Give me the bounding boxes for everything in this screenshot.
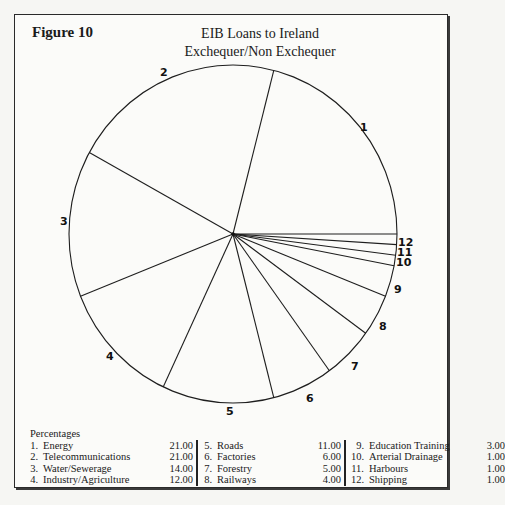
legend-item: 5.Roads11.00 [204,440,346,452]
slice-label-7: 7 [351,360,359,373]
legend-item: 8.Railways4.00 [204,474,346,486]
legend-name: Roads [217,440,309,452]
legend-value: 3.00 [479,440,505,452]
legend-item: 7.Forestry5.00 [204,463,346,475]
legend-number: 2. [30,451,43,463]
legend-value: 11.00 [309,440,346,452]
legend-column-3: 9.Education Training3.00 10.Arterial Dra… [346,440,505,486]
legend-value: 12.00 [161,474,198,486]
legend-number: 4. [30,474,43,486]
legend-value: 4.00 [309,474,346,486]
slice-boundary [233,234,274,398]
legend-name: Factories [217,451,309,463]
legend-item: 9.Education Training3.00 [350,440,505,452]
legend-number: 5. [204,440,217,452]
slice-boundary [81,234,234,296]
slice-label-5: 5 [226,405,234,418]
legend-item: 3.Water/Sewerage14.00 [30,463,198,475]
slice-label-8: 8 [379,320,387,333]
slice-label-6: 6 [306,392,314,405]
legend-number: 6. [204,451,217,463]
legend-number: 8. [204,474,217,486]
legend-item: 10.Arterial Drainage1.00 [350,451,505,463]
legend: Percentages 1.Energy21.00 2.Telecommunic… [30,428,505,486]
slice-boundary [233,70,274,234]
legend-name: Arterial Drainage [369,451,479,463]
legend-item: 1.Energy21.00 [30,440,198,452]
legend-value: 1.00 [479,451,505,463]
legend-number: 9. [350,440,369,452]
legend-item: 4.Industry/Agriculture12.00 [30,474,198,486]
slice-label-2: 2 [160,66,168,79]
legend-number: 12. [350,474,369,486]
slice-label-12: 12 [398,236,413,249]
slice-label-4: 4 [106,350,114,363]
legend-number: 1. [30,440,43,452]
legend-name: Harbours [369,463,479,475]
slice-boundary [89,153,233,234]
legend-value: 1.00 [479,474,505,486]
legend-title: Percentages [30,428,505,440]
legend-value: 6.00 [309,451,346,463]
slice-boundary [163,234,233,387]
legend-item: 12.Shipping1.00 [350,474,505,486]
legend-name: Railways [217,474,309,486]
legend-name: Industry/Agriculture [43,474,161,486]
legend-item: 2.Telecommunications21.00 [30,451,198,463]
legend-value: 1.00 [479,463,505,475]
legend-value: 5.00 [309,463,346,475]
legend-column-1: 1.Energy21.00 2.Telecommunications21.00 … [30,440,198,486]
legend-name: Shipping [369,474,479,486]
legend-name: Education Training [369,440,479,452]
legend-column-2: 5.Roads11.00 6.Factories6.00 7.Forestry5… [198,440,346,486]
legend-value: 21.00 [161,440,198,452]
legend-number: 7. [204,463,217,475]
pie-center [231,232,235,236]
slice-label-3: 3 [60,215,68,228]
legend-value: 21.00 [161,451,198,463]
slice-label-9: 9 [394,283,402,296]
legend-item: 6.Factories6.00 [204,451,346,463]
legend-name: Water/Sewerage [43,463,161,475]
legend-value: 14.00 [161,463,198,475]
legend-name: Forestry [217,463,309,475]
legend-name: Telecommunications [43,451,161,463]
slice-boundary [233,234,329,371]
slice-boundary [233,234,386,296]
legend-name: Energy [43,440,161,452]
legend-number: 3. [30,463,43,475]
legend-number: 11. [350,463,369,475]
legend-item: 11.Harbours1.00 [350,463,505,475]
slice-label-1: 1 [360,121,368,134]
legend-number: 10. [350,451,369,463]
